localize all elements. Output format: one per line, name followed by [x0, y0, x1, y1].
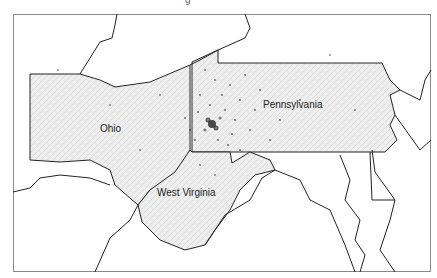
state-label-west-virginia: West Virginia — [157, 187, 216, 198]
state-label-ohio: Ohio — [100, 123, 121, 134]
state-label-pennsylvania: Pennsylvania — [263, 99, 322, 110]
map-svg — [0, 0, 437, 278]
